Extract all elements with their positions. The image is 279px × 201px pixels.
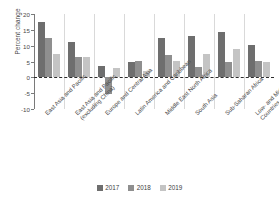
chart-legend: 201720182019 xyxy=(0,184,279,191)
bar xyxy=(38,22,45,77)
bar xyxy=(53,54,60,77)
legend-label: 2017 xyxy=(105,184,119,191)
bar xyxy=(68,42,75,78)
bar-chart: Percent change 20151050-5-10 East Asia a… xyxy=(0,0,279,201)
legend-swatch xyxy=(160,185,166,191)
bar xyxy=(45,38,52,77)
y-axis-tick-label: -10 xyxy=(21,106,30,113)
legend-label: 2019 xyxy=(168,184,182,191)
y-axis-tick-label: 5 xyxy=(27,58,30,65)
y-axis-title: Percent change xyxy=(14,0,21,75)
y-axis-tick-label: -5 xyxy=(24,90,30,97)
y-axis-tick-label: 20 xyxy=(23,11,30,18)
legend-item[interactable]: 2019 xyxy=(160,184,183,191)
bar xyxy=(128,62,135,78)
bar xyxy=(233,49,240,77)
bar xyxy=(255,61,262,77)
legend-swatch xyxy=(128,185,134,191)
legend-label: 2018 xyxy=(137,184,151,191)
y-axis-tick-label: 15 xyxy=(23,26,30,33)
y-axis-tick-label: 10 xyxy=(23,42,30,49)
bar xyxy=(158,38,165,78)
bar xyxy=(188,36,195,77)
legend-item[interactable]: 2018 xyxy=(128,184,151,191)
y-axis-tick-label: 0 xyxy=(27,74,30,81)
legend-item[interactable]: 2017 xyxy=(97,184,120,191)
bar xyxy=(225,62,232,77)
bar xyxy=(248,45,255,77)
bar xyxy=(98,66,105,77)
x-axis-labels: East Asia and PacificEast Asia and Pacif… xyxy=(34,110,274,182)
legend-swatch xyxy=(97,185,103,191)
bar xyxy=(218,32,225,77)
bar xyxy=(263,62,270,78)
